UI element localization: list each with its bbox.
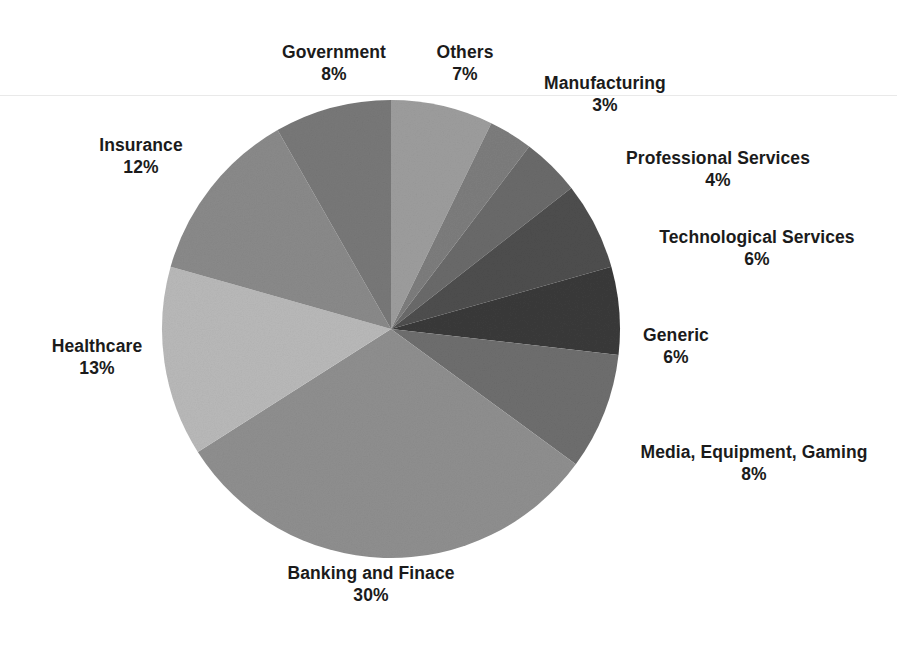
pie-chart-figure: Government 8% Others 7% Manufacturing 3%… <box>0 0 897 652</box>
slice-label-banking-and-finance-value: 30% <box>253 584 489 606</box>
slice-label-banking-and-finance-name: Banking and Finace <box>253 562 489 584</box>
slice-label-manufacturing-name: Manufacturing <box>514 72 696 94</box>
slice-label-manufacturing: Manufacturing 3% <box>514 72 696 117</box>
slice-label-technological-services: Technological Services 6% <box>632 226 882 271</box>
slice-label-insurance: Insurance 12% <box>76 134 206 179</box>
slice-label-government: Government 8% <box>258 41 410 86</box>
slice-label-others-value: 7% <box>412 63 518 85</box>
slice-label-technological-services-name: Technological Services <box>632 226 882 248</box>
pie-chart-svg <box>0 0 897 652</box>
slice-label-generic-value: 6% <box>618 346 734 368</box>
slice-label-media-equipment-gaming-value: 8% <box>620 463 888 485</box>
slice-label-professional-services-value: 4% <box>600 169 836 191</box>
slice-label-media-equipment-gaming: Media, Equipment, Gaming 8% <box>620 441 888 486</box>
slice-label-government-value: 8% <box>258 63 410 85</box>
slice-label-generic-name: Generic <box>618 324 734 346</box>
slice-label-manufacturing-value: 3% <box>514 94 696 116</box>
slice-label-healthcare-value: 13% <box>27 357 167 379</box>
slice-label-others-name: Others <box>412 41 518 63</box>
pie-slice-group <box>162 100 620 558</box>
slice-label-healthcare: Healthcare 13% <box>27 335 167 380</box>
slice-label-others: Others 7% <box>412 41 518 86</box>
slice-label-government-name: Government <box>258 41 410 63</box>
slice-label-generic: Generic 6% <box>618 324 734 369</box>
slice-label-insurance-name: Insurance <box>76 134 206 156</box>
slice-label-technological-services-value: 6% <box>632 248 882 270</box>
slice-label-professional-services: Professional Services 4% <box>600 147 836 192</box>
slice-label-banking-and-finance: Banking and Finace 30% <box>253 562 489 607</box>
slice-label-healthcare-name: Healthcare <box>27 335 167 357</box>
slice-label-professional-services-name: Professional Services <box>600 147 836 169</box>
slice-label-insurance-value: 12% <box>76 156 206 178</box>
slice-label-media-equipment-gaming-name: Media, Equipment, Gaming <box>620 441 888 463</box>
